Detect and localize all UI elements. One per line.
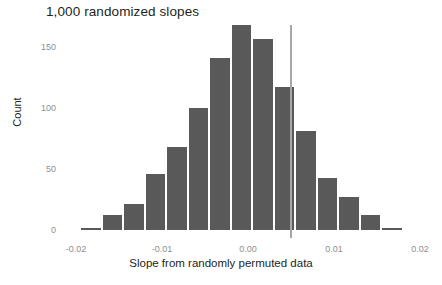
x-tick-label: -0.02 [51,244,101,254]
y-tick-label: 50 [30,164,56,174]
plot-area [62,25,430,230]
histogram-bar [166,147,188,230]
histogram-bar [188,108,210,230]
histogram-bar [317,178,339,230]
histogram-figure: 1,000 randomized slopes Count 0 50 100 1… [0,0,442,285]
x-tick-label: 0.02 [395,244,442,254]
histogram-bar [80,228,102,230]
x-tick-label: 0.01 [309,244,359,254]
y-tick-label: 150 [30,42,56,52]
histogram-bar [274,87,296,230]
histogram-bar [123,204,145,230]
histogram-bar [145,174,167,230]
x-axis-title: Slope from randomly permuted data [0,257,442,269]
histogram-bars [62,25,430,230]
y-tick-label: 0 [30,225,56,235]
histogram-bar [231,25,253,230]
x-tick-label: 0.00 [223,244,273,254]
histogram-bar [360,215,382,230]
histogram-bar [295,131,317,230]
x-tick-label: -0.01 [137,244,187,254]
y-tick-label: 100 [30,103,56,113]
histogram-bar [102,215,124,230]
histogram-bar [209,58,231,230]
histogram-bar [252,39,274,230]
histogram-bar [381,228,403,230]
chart-title: 1,000 randomized slopes [46,4,199,19]
histogram-bar [338,197,360,230]
y-axis-title: Count [11,97,23,126]
observed-slope-line [290,25,292,238]
